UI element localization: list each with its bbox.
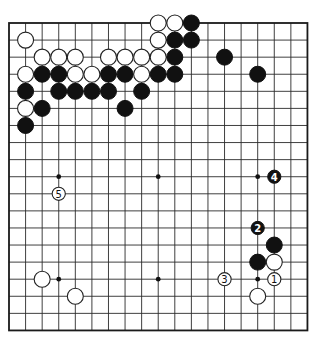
star-point: [156, 277, 161, 282]
black-stone[interactable]: [18, 83, 34, 99]
white-stone[interactable]: [67, 49, 83, 65]
black-stone[interactable]: [100, 83, 116, 99]
black-stone[interactable]: [167, 32, 183, 48]
white-stone[interactable]: [67, 66, 83, 82]
black-stone[interactable]: [250, 254, 266, 270]
move-number-label: 2: [254, 223, 261, 234]
white-stone[interactable]: [150, 32, 166, 48]
star-point: [255, 277, 260, 282]
black-stone[interactable]: [67, 83, 83, 99]
black-stone[interactable]: [51, 83, 67, 99]
white-stone[interactable]: [117, 49, 133, 65]
move-number-label: 4: [271, 172, 278, 183]
white-stone[interactable]: [150, 15, 166, 31]
white-stone[interactable]: [34, 49, 50, 65]
black-stone[interactable]: [150, 66, 166, 82]
black-stone[interactable]: [250, 66, 266, 82]
go-board[interactable]: 12345: [0, 0, 316, 341]
white-stone[interactable]: [150, 49, 166, 65]
black-stone[interactable]: [134, 83, 150, 99]
white-stone[interactable]: [34, 271, 50, 287]
black-stone[interactable]: [51, 66, 67, 82]
black-stone[interactable]: [183, 15, 199, 31]
move-1-white-stone[interactable]: 1: [268, 273, 281, 286]
black-stone[interactable]: [34, 100, 50, 116]
black-stone[interactable]: [266, 237, 282, 253]
star-point: [156, 174, 161, 179]
move-number-label: 5: [56, 189, 62, 200]
black-stone[interactable]: [18, 117, 34, 133]
white-stone[interactable]: [51, 49, 67, 65]
white-stone[interactable]: [250, 288, 266, 304]
star-point: [56, 277, 61, 282]
white-stone[interactable]: [84, 66, 100, 82]
black-stone[interactable]: [34, 66, 50, 82]
white-stone[interactable]: [18, 32, 34, 48]
white-stone[interactable]: [18, 66, 34, 82]
black-stone[interactable]: [117, 100, 133, 116]
black-stone[interactable]: [183, 32, 199, 48]
white-stone[interactable]: [134, 66, 150, 82]
black-stone[interactable]: [217, 49, 233, 65]
move-number-label: 3: [221, 274, 227, 285]
white-stone[interactable]: [134, 49, 150, 65]
black-stone[interactable]: [167, 49, 183, 65]
move-3-white-stone[interactable]: 3: [218, 273, 231, 286]
white-stone[interactable]: [67, 288, 83, 304]
white-stone[interactable]: [18, 100, 34, 116]
black-stone[interactable]: [84, 83, 100, 99]
star-point: [255, 174, 260, 179]
black-stone[interactable]: [167, 66, 183, 82]
white-stone[interactable]: [100, 49, 116, 65]
black-stone[interactable]: [117, 66, 133, 82]
white-stone[interactable]: [167, 15, 183, 31]
white-stone[interactable]: [266, 254, 282, 270]
star-point: [56, 174, 61, 179]
move-5-white-stone[interactable]: 5: [52, 187, 65, 200]
move-4-black-stone[interactable]: 4: [268, 170, 281, 183]
move-number-label: 1: [271, 274, 277, 285]
move-2-black-stone[interactable]: 2: [251, 221, 264, 234]
black-stone[interactable]: [100, 66, 116, 82]
